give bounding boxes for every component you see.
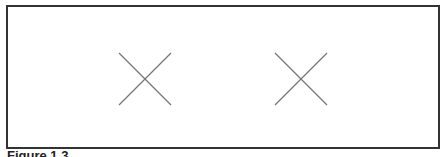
- figure-frame: [6, 5, 440, 149]
- figure-caption: Figure 1.3: [7, 148, 68, 157]
- x-mark-icon: [274, 52, 328, 106]
- x-mark-icon: [118, 52, 172, 106]
